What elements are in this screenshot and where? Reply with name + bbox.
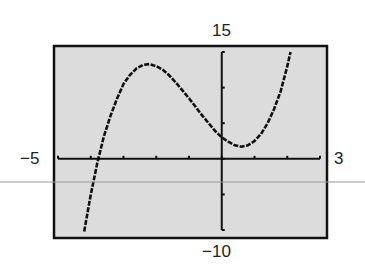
xmin-label: −5 [20,150,39,167]
xmax-label: 3 [334,150,343,167]
ymin-label: −10 [202,243,231,260]
screen-frame [54,46,327,238]
graph-screen [0,0,365,265]
ymax-label: 15 [212,22,231,39]
